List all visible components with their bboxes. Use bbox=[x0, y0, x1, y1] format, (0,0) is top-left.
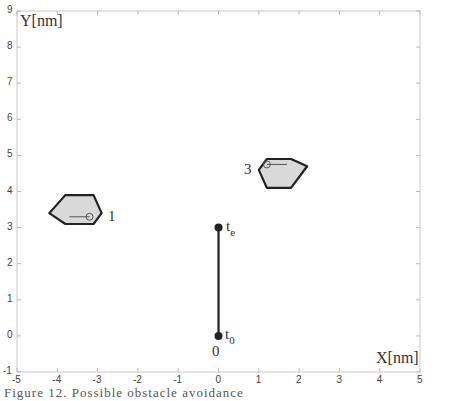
obstacle-3 bbox=[259, 159, 307, 188]
obstacles bbox=[49, 159, 307, 224]
y-tick-label: 3 bbox=[7, 221, 13, 232]
x-axis-label: X[nm] bbox=[376, 349, 419, 367]
x-tick-label: -1 bbox=[173, 374, 182, 385]
figure-caption: Figure 12. Possible obstacle avoidance bbox=[4, 385, 244, 401]
y-tick-label: 6 bbox=[7, 112, 13, 123]
trajectory-end-point bbox=[215, 224, 223, 232]
x-tick-label: -4 bbox=[52, 374, 61, 385]
y-tick-label: 5 bbox=[7, 148, 13, 159]
y-tick-label: -1 bbox=[3, 365, 12, 376]
x-tick-label: 4 bbox=[377, 374, 383, 385]
start-index-label: 0 bbox=[212, 343, 220, 360]
obstacle-3-label: 3 bbox=[244, 161, 252, 178]
y-tick-label: 8 bbox=[7, 40, 13, 51]
start-time-label: t0 bbox=[225, 326, 235, 343]
x-tick-label: 1 bbox=[256, 374, 262, 385]
x-tick-label: 2 bbox=[296, 374, 302, 385]
end-time-label: te bbox=[226, 218, 235, 235]
y-tick-label: 0 bbox=[7, 329, 13, 340]
obstacle-1-label: 1 bbox=[108, 208, 116, 225]
x-tick-label: -3 bbox=[93, 374, 102, 385]
x-tick-label: -2 bbox=[133, 374, 142, 385]
obstacle-1 bbox=[49, 195, 101, 224]
y-tick-label: 7 bbox=[7, 76, 13, 87]
x-tick-label: 0 bbox=[216, 374, 222, 385]
trajectory-start-point bbox=[215, 332, 223, 340]
y-tick-label: 9 bbox=[7, 4, 13, 15]
x-tick-label: -5 bbox=[12, 374, 21, 385]
y-tick-label: 2 bbox=[7, 257, 13, 268]
x-tick-label: 3 bbox=[336, 374, 342, 385]
trajectory bbox=[215, 224, 223, 340]
y-tick-label: 1 bbox=[7, 293, 13, 304]
y-axis-label: Y[nm] bbox=[20, 12, 63, 30]
x-tick-label: 5 bbox=[417, 374, 423, 385]
y-tick-label: 4 bbox=[7, 185, 13, 196]
